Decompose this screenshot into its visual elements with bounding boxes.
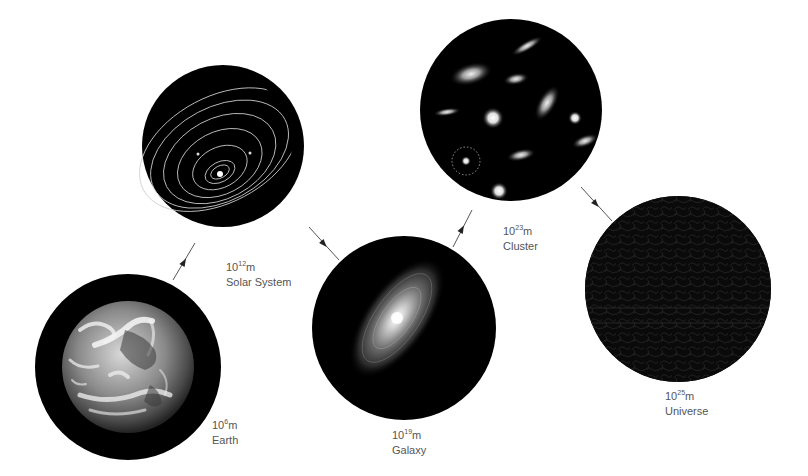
stage-cluster <box>420 19 602 201</box>
planet-dot <box>249 152 252 155</box>
scale-value: 1019m <box>392 428 426 443</box>
label-cluster: 1023m Cluster <box>503 224 538 254</box>
scale-value: 1012m <box>226 260 291 275</box>
stage-earth <box>35 274 221 460</box>
solar-system-disc <box>142 65 304 227</box>
stage-universe <box>585 196 771 382</box>
label-galaxy: 1019m Galaxy <box>392 428 426 458</box>
label-earth: 106m Earth <box>212 418 238 448</box>
arrowhead-icon <box>457 224 466 234</box>
scale-value: 1023m <box>503 224 538 239</box>
stage-name: Universe <box>665 404 708 419</box>
scale-value: 1025m <box>665 389 708 404</box>
powers-of-ten-diagram: 106m Earth 1012m Solar System 1019m Gala… <box>0 0 808 476</box>
label-solar-system: 1012m Solar System <box>226 260 291 290</box>
planet-dot <box>197 153 200 156</box>
stage-name: Earth <box>212 433 238 448</box>
galactic-core <box>391 312 403 324</box>
stage-galaxy <box>312 236 496 420</box>
cosmic-web-texture <box>585 196 771 382</box>
arrowhead-icon <box>179 257 188 267</box>
stage-name: Cluster <box>503 239 538 254</box>
stage-solar-system <box>119 62 321 236</box>
stage-name: Solar System <box>226 275 291 290</box>
sun-icon <box>217 171 223 177</box>
stage-name: Galaxy <box>392 443 426 458</box>
scale-value: 106m <box>212 418 238 433</box>
label-universe: 1025m Universe <box>665 389 708 419</box>
